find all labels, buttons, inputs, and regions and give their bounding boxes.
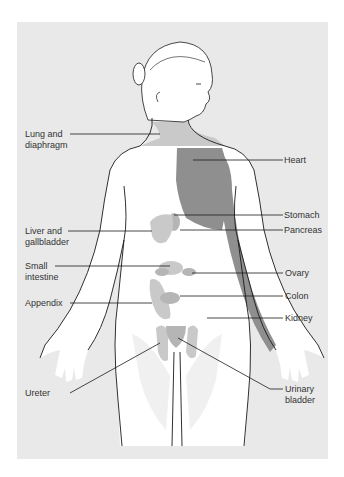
label-ureter: Ureter [25,388,50,399]
label-small-intestine: Small intestine [25,261,59,283]
label-lung-and-diaphragm: Lung and diaphragm [25,129,68,151]
ovary-left-region [155,268,169,276]
label-pancreas: Pancreas [284,225,322,236]
label-liver-and-gallbladder: Liver and gallbladder [25,226,69,248]
head [142,42,213,122]
label-colon: Colon [285,291,309,302]
label-stomach: Stomach [284,210,320,221]
label-kidney: Kidney [285,313,313,324]
hair-bun [133,63,145,85]
label-urinary-bladder: Urinary bladder [285,384,315,406]
label-ovary: Ovary [285,268,309,279]
label-appendix: Appendix [25,298,63,309]
colon-region [160,292,180,304]
label-heart: Heart [284,155,306,166]
ovary-right-region [182,268,196,276]
